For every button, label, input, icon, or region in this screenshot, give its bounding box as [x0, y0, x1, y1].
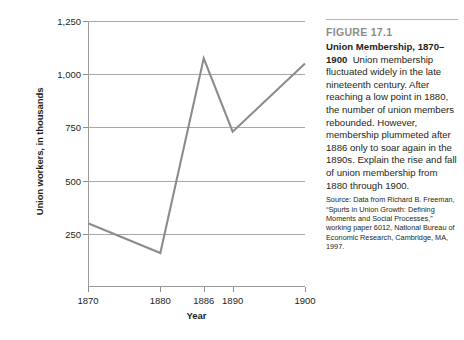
figure-title: Union Membership,	[326, 41, 415, 52]
plot-area: 2505007501,0001,250 18701880188618901900	[88, 21, 305, 287]
y-axis-tick-label: 1,000	[57, 69, 81, 80]
y-axis-tick-label: 500	[65, 175, 81, 186]
series-line-union-workers	[88, 21, 305, 287]
x-axis-tick	[88, 287, 89, 292]
caption-text: Union Membership, 1870–1900 Union member…	[326, 41, 458, 192]
x-axis-tick-label: 1886	[193, 295, 214, 306]
caption-divider	[326, 19, 458, 20]
x-axis-tick	[204, 287, 205, 292]
y-axis-tick-label: 250	[65, 228, 81, 239]
x-axis-tick-label: 1900	[294, 295, 315, 306]
y-axis-tick-label: 1,250	[57, 16, 81, 27]
x-axis-tick-label: 1870	[77, 295, 98, 306]
x-axis-tick	[233, 287, 234, 292]
caption-body: FIGURE 17.1 Union Membership, 1870–1900 …	[326, 26, 458, 252]
x-axis-tick	[160, 287, 161, 292]
caption-panel: FIGURE 17.1 Union Membership, 1870–1900 …	[326, 0, 458, 340]
chart-panel: Union workers, in thousands 2505007501,0…	[0, 0, 318, 340]
x-axis-tick-label: 1880	[150, 295, 171, 306]
figure-number-label: FIGURE 17.1	[326, 26, 458, 38]
figure-caption-text: Union membership fluctuated widely in th…	[326, 54, 457, 191]
x-axis-tick	[305, 287, 306, 292]
figure-source-note: Source: Data from Richard B. Freeman, “S…	[326, 195, 458, 251]
x-axis-title: Year	[88, 310, 305, 321]
figure-page: Union workers, in thousands 2505007501,0…	[0, 0, 464, 340]
y-axis-title: Union workers, in thousands	[34, 52, 45, 252]
y-axis-tick-label: 750	[65, 122, 81, 133]
x-axis-tick-label: 1890	[222, 295, 243, 306]
